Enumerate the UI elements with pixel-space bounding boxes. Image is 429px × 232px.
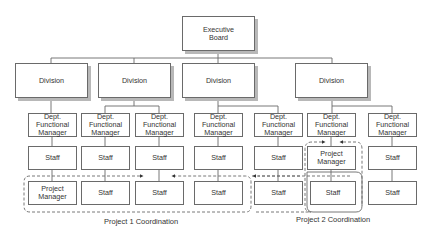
dept-manager-box-5: Dept. Functional Manager	[254, 113, 303, 137]
dept-manager-box-3: Dept. Functional Manager	[135, 113, 184, 137]
dept-manager-box-7: Dept. Functional Manager	[368, 113, 417, 137]
staff-label: Staff	[211, 189, 226, 197]
staff-box-r3c6: Staff	[310, 181, 356, 205]
division-box-3: Division	[182, 63, 255, 98]
project-manager-label: Project Manager	[317, 150, 345, 166]
dept-manager-box-2: Dept. Functional Manager	[81, 113, 130, 137]
arrow-icon	[172, 174, 176, 177]
arrow-icon	[322, 140, 326, 143]
staff-label: Staff	[271, 189, 286, 197]
project2-caption: Project 2 Coordination	[296, 215, 370, 224]
staff-box-r2c3: Staff	[135, 146, 184, 170]
staff-label: Staff	[98, 189, 113, 197]
division-label: Division	[39, 77, 64, 85]
staff-label: Staff	[45, 154, 60, 162]
division-label: Division	[206, 77, 231, 85]
org-chart-diagram: Executive Board Division Division Divisi…	[0, 0, 429, 232]
division-label: Division	[319, 77, 344, 85]
staff-box-r2c1: Staff	[28, 146, 77, 170]
staff-label: Staff	[152, 189, 167, 197]
staff-box-r3c7: Staff	[368, 181, 417, 205]
staff-box-r2c4: Staff	[194, 146, 243, 170]
staff-label: Staff	[271, 154, 286, 162]
dept-manager-label: Dept. Functional Manager	[262, 113, 295, 137]
staff-label: Staff	[326, 189, 341, 197]
project1-caption: Project 1 Coordination	[104, 217, 178, 226]
staff-box-r3c5: Staff	[254, 181, 303, 205]
arrow-icon	[253, 174, 257, 177]
staff-label: Staff	[211, 154, 226, 162]
staff-box-r2c7: Staff	[368, 146, 417, 170]
staff-box-r3c2: Staff	[81, 181, 130, 205]
arrow-icon	[140, 174, 144, 177]
dept-manager-label: Dept. Functional Manager	[89, 113, 122, 137]
dept-manager-box-6: Dept. Functional Manager	[307, 113, 356, 137]
division-box-4: Division	[295, 63, 368, 98]
staff-box-r2c2: Staff	[81, 146, 130, 170]
staff-box-r3c3: Staff	[135, 181, 184, 205]
dept-manager-label: Dept. Functional Manager	[376, 113, 409, 137]
dept-manager-label: Dept. Functional Manager	[36, 113, 69, 137]
staff-label: Staff	[385, 154, 400, 162]
project1-manager-box: Project Manager	[28, 181, 77, 205]
dept-manager-box-4: Dept. Functional Manager	[194, 113, 243, 137]
project-manager-label: Project Manager	[38, 185, 66, 201]
division-box-1: Division	[15, 63, 88, 98]
executive-board-label: Executive Board	[203, 26, 234, 42]
staff-box-r2c5: Staff	[254, 146, 303, 170]
dept-manager-label: Dept. Functional Manager	[315, 113, 348, 137]
executive-board-box: Executive Board	[182, 16, 255, 51]
arrow-icon	[340, 140, 344, 143]
dept-manager-box-1: Dept. Functional Manager	[28, 113, 77, 137]
staff-label: Staff	[98, 154, 113, 162]
dept-manager-label: Dept. Functional Manager	[202, 113, 235, 137]
staff-box-r3c4: Staff	[194, 181, 243, 205]
project2-manager-box: Project Manager	[307, 146, 356, 170]
division-label: Division	[122, 77, 147, 85]
staff-label: Staff	[385, 189, 400, 197]
dept-manager-label: Dept. Functional Manager	[143, 113, 176, 137]
division-box-2: Division	[98, 63, 171, 98]
staff-label: Staff	[152, 154, 167, 162]
